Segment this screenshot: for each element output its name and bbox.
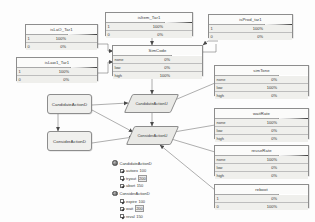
- node-reboot[interactable]: reboot 1 0% 0 100%: [214, 184, 309, 208]
- node-reuseRate[interactable]: reuseRate none 100% low 0% high 0%: [214, 145, 309, 176]
- state-label: 0: [108, 31, 110, 38]
- state-label: low: [217, 164, 223, 171]
- state-label: none: [115, 56, 124, 63]
- legend-item-value: 100: [137, 221, 144, 222]
- node-isLaw1_Tar1[interactable]: isLaw1_Tar1 1 100% 0 0%: [16, 57, 98, 81]
- state-label: high: [217, 135, 225, 142]
- legend-item[interactable]: abort 150: [112, 182, 192, 190]
- node-isLaO_Tar1[interactable]: isLaO_Tar1 1 100% 0 0%: [25, 24, 98, 48]
- checkbox-icon[interactable]: [120, 199, 124, 203]
- state-value: 0%: [271, 92, 277, 99]
- legend-item-name: autoex: [126, 168, 138, 173]
- node-row[interactable]: 1 100%: [26, 35, 97, 43]
- node-waitRate[interactable]: waitRate none 100% low 0% high 0%: [214, 108, 309, 139]
- utility-node-candidate-action[interactable]: CandidateActionU: [128, 94, 175, 113]
- legend-item-value: 100: [138, 199, 145, 204]
- node-isItem_Tar1[interactable]: isItem_Tar1 1 100% 0 0%: [105, 12, 193, 36]
- legend-item-value: 100: [140, 168, 147, 173]
- state-value: 100%: [153, 23, 163, 30]
- state-value: 0%: [271, 172, 277, 179]
- node-row[interactable]: high 0%: [215, 135, 308, 142]
- state-value: 0%: [271, 135, 277, 142]
- node-row[interactable]: high 0%: [215, 92, 308, 99]
- checkbox-icon[interactable]: [120, 207, 124, 211]
- state-value: 0%: [271, 76, 277, 83]
- state-value: 0%: [63, 76, 69, 83]
- checkbox-icon[interactable]: [120, 169, 124, 173]
- legend-item[interactable]: autoex 100: [112, 167, 192, 175]
- node-row[interactable]: 0 0%: [106, 31, 192, 38]
- node-row[interactable]: none 100%: [215, 119, 308, 127]
- state-value: 100%: [267, 84, 277, 91]
- state-label: high: [115, 72, 123, 79]
- node-simTone[interactable]: simTone none 0% low 100% high 0%: [214, 65, 309, 96]
- state-value: 0%: [271, 164, 277, 171]
- node-row[interactable]: 0 0%: [17, 76, 97, 83]
- node-row[interactable]: none 100%: [215, 156, 308, 164]
- node-SimCode[interactable]: SimCode none 0% low 0% high 100%: [112, 45, 203, 76]
- decision-node-consider-action[interactable]: ConsiderActionD: [47, 131, 92, 151]
- node-row[interactable]: 1 100%: [17, 68, 97, 76]
- decision-node-icon: [112, 191, 118, 197]
- node-row[interactable]: 1 100%: [209, 25, 292, 33]
- state-label: low: [217, 127, 223, 134]
- state-value: 0%: [164, 64, 170, 71]
- node-row[interactable]: 1 0%: [215, 195, 308, 203]
- legend-item-value: 200: [135, 205, 145, 212]
- legend-item[interactable]: expire 100: [112, 198, 192, 206]
- node-isProd_tar1[interactable]: isProd_tar1 1 100% 0 0%: [208, 14, 293, 38]
- legend-item[interactable]: tryout 200: [112, 175, 192, 183]
- state-value: 100%: [267, 119, 277, 126]
- legend-group-label: ConsiderActionD: [120, 191, 150, 196]
- state-value: 0%: [157, 31, 163, 38]
- node-row[interactable]: high 100%: [113, 72, 202, 79]
- state-label: 0: [28, 43, 30, 50]
- state-label: 0: [217, 203, 219, 210]
- utility-node-consider-action[interactable]: ConsiderActionU: [130, 126, 175, 145]
- node-row[interactable]: low 0%: [215, 164, 308, 172]
- state-label: 1: [108, 23, 110, 30]
- node-row[interactable]: low 100%: [215, 84, 308, 92]
- decision-node-candidate-action[interactable]: CandidateActionD: [47, 94, 92, 114]
- legend-item-name: reval: [126, 214, 135, 219]
- legend-group-header[interactable]: CandidateActionD: [112, 159, 192, 167]
- node-row[interactable]: low 0%: [215, 127, 308, 135]
- state-value: 100%: [267, 203, 277, 210]
- legend-item[interactable]: reval 150: [112, 213, 192, 221]
- node-row[interactable]: high 0%: [215, 172, 308, 179]
- decision-value-legend[interactable]: CandidateActionD autoex 100 tryout 200 a…: [112, 159, 192, 222]
- state-label: high: [217, 92, 225, 99]
- node-rows: 1 100% 0 0%: [26, 35, 97, 50]
- node-row[interactable]: low 0%: [113, 64, 202, 72]
- state-value: 100%: [160, 72, 170, 79]
- state-label: none: [217, 76, 226, 83]
- legend-group-label: CandidateActionD: [120, 161, 152, 166]
- state-value: 0%: [257, 33, 263, 40]
- state-value: 0%: [271, 195, 277, 202]
- state-label: low: [115, 64, 121, 71]
- checkbox-icon[interactable]: [120, 214, 124, 218]
- state-label: none: [217, 156, 226, 163]
- node-row[interactable]: 0 100%: [215, 203, 308, 210]
- legend-item-value: 150: [137, 183, 144, 188]
- node-row[interactable]: 0 0%: [209, 33, 292, 40]
- checkbox-icon[interactable]: [120, 184, 124, 188]
- node-rows: 1 100% 0 0%: [106, 23, 192, 38]
- state-label: 1: [28, 35, 30, 42]
- legend-item[interactable]: abort 100: [112, 220, 192, 222]
- node-row[interactable]: 0 0%: [26, 43, 97, 50]
- node-rows: none 100% low 0% high 0%: [215, 156, 308, 179]
- legend-item-name: tryout: [126, 176, 136, 181]
- legend-item[interactable]: wait 200: [112, 205, 192, 213]
- legend-item-name: abort: [126, 183, 135, 188]
- checkbox-icon[interactable]: [120, 176, 124, 180]
- node-row[interactable]: none 0%: [215, 76, 308, 84]
- legend-group-header[interactable]: ConsiderActionD: [112, 190, 192, 198]
- node-rows: none 0% low 100% high 0%: [215, 76, 308, 99]
- state-value: 0%: [60, 43, 66, 50]
- diagram-canvas[interactable]: isLaO_Tar1 1 100% 0 0% isItem_Tar1 1 100: [0, 0, 315, 222]
- state-value: 100%: [56, 35, 66, 42]
- node-row[interactable]: 1 100%: [106, 23, 192, 31]
- node-row[interactable]: none 0%: [113, 56, 202, 64]
- utility-node-label: ConsiderActionU: [137, 133, 167, 138]
